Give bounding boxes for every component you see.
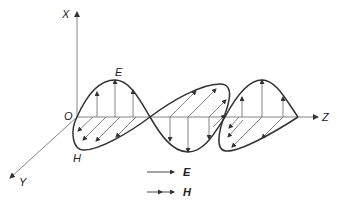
legend: E H [147,166,192,198]
em-wave-diagram: X Z Y O E H E H [0,0,337,200]
legend-h-label: H [183,186,192,198]
y-axis-label: Y [19,176,27,188]
legend-item-e: E [147,166,191,178]
z-axis-label: Z [321,111,330,123]
origin-label: O [64,110,73,122]
h-wave-curve [73,84,298,151]
legend-item-h: H [147,186,192,198]
h-wave-label: H [73,152,81,164]
x-axis-label: X [61,8,70,20]
legend-e-label: E [183,166,191,178]
axes [10,12,318,178]
y-axis [10,117,77,178]
e-wave-label: E [115,66,123,78]
